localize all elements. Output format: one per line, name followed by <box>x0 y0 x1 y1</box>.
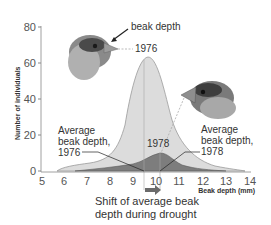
x-tick-label: 9 <box>130 175 136 187</box>
shift-caption: Shift of average beak depth during droug… <box>95 195 235 221</box>
x-tick-label: 5 <box>39 175 45 187</box>
avg-1978-label-line2: beak depth, <box>201 135 253 146</box>
x-tick-label: 10 <box>150 175 162 187</box>
y-tick-label: 80 <box>24 21 36 33</box>
caption-line2: depth during drought <box>95 208 235 221</box>
x-tick-label: 11 <box>173 175 184 187</box>
beak-depth-arrow <box>113 29 128 40</box>
y-tick-label: 60 <box>24 57 36 69</box>
x-axis-title: Beak depth (mm) <box>198 187 255 195</box>
avg-1976-label-line2: beak depth, <box>58 136 110 147</box>
x-ticks: 5 6 7 8 9 10 11 12 13 14 <box>39 175 256 187</box>
finch-1976-illustration <box>68 35 118 80</box>
avg-1978-label-line1: Average <box>201 124 239 135</box>
x-tick-label: 7 <box>84 175 90 187</box>
year-label-1976: 1976 <box>135 43 158 54</box>
x-tick-label: 13 <box>220 175 232 187</box>
x-tick-label: 8 <box>107 175 113 187</box>
beak-depth-chart: 0 20 40 60 80 5 6 7 8 9 10 11 12 13 14 N… <box>0 0 271 225</box>
beak-depth-label: beak depth <box>131 21 181 32</box>
x-tick-label: 12 <box>197 175 209 187</box>
y-axis-title: Number of individuals <box>14 66 21 140</box>
finch-1978-illustration <box>181 81 236 119</box>
y-ticks: 0 20 40 60 80 <box>24 21 41 177</box>
y-tick-label: 0 <box>30 165 36 177</box>
avg-1978-label-line3: 1978 <box>201 146 224 157</box>
x-tick-label: 14 <box>244 175 256 187</box>
year-label-1978: 1978 <box>147 138 170 149</box>
avg-1976-label-line3: 1976 <box>58 147 81 158</box>
x-tick-label: 6 <box>61 175 67 187</box>
y-tick-label: 40 <box>24 93 36 105</box>
y-tick-label: 20 <box>24 129 36 141</box>
avg-1976-label-line1: Average <box>58 125 96 136</box>
caption-line1: Shift of average beak <box>95 195 235 208</box>
